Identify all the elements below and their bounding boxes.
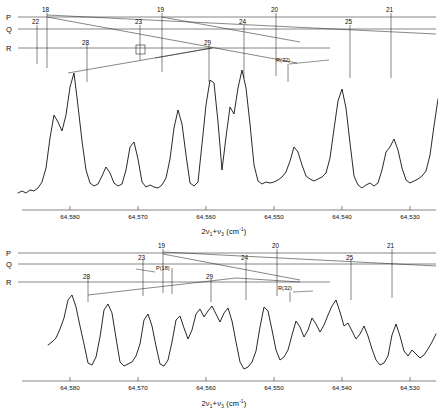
top-panel: P Q R 18 19 20 21 22 23 bbox=[0, 0, 438, 240]
bottom-comb-num-P-20: 20 bbox=[272, 242, 280, 249]
bottom-comb-num-R-28: 28 bbox=[83, 273, 91, 280]
bottom-comb-num-P-21: 21 bbox=[387, 242, 395, 249]
top-comb-num-P-19: 19 bbox=[157, 6, 165, 13]
top-spectrum-trace bbox=[18, 70, 438, 193]
bottom-comb-num-Q-23: 23 bbox=[138, 254, 146, 261]
top-tick-label-3: 64,550 bbox=[264, 213, 284, 220]
top-branch-label-P: P bbox=[6, 13, 11, 22]
top-comb-slant-5 bbox=[155, 48, 212, 58]
top-comb-num-Q-22: 22 bbox=[32, 18, 40, 25]
bottom-branch-label-R: R bbox=[6, 278, 12, 287]
bottom-comb-num-Q-24: 24 bbox=[241, 254, 249, 261]
bottom-annotation-P18: P(18) bbox=[136, 265, 172, 294]
bottom-tick-label-3: 64,550 bbox=[264, 384, 284, 391]
top-tick-label-0: 64,580 bbox=[60, 213, 80, 220]
top-branch-label-R: R bbox=[6, 44, 12, 53]
bottom-tick-label-1: 64,570 bbox=[128, 384, 148, 391]
bottom-tick-label-0: 64,580 bbox=[60, 384, 80, 391]
bottom-comb-num-R-29: 29 bbox=[206, 273, 214, 280]
top-comb-num-Q-24: 24 bbox=[239, 18, 247, 25]
top-annotation-R32: R(32) bbox=[276, 57, 329, 82]
top-x-axis-tick-labels: 64,580 64,570 64,560 64,550 64,540 64,53… bbox=[60, 213, 420, 220]
bottom-tick-label-2: 64,560 bbox=[196, 384, 216, 391]
top-overlap-box bbox=[136, 45, 145, 54]
top-comb-num-P-18: 18 bbox=[42, 6, 50, 13]
bottom-annotation-P18-label: P(18) bbox=[156, 265, 170, 271]
top-comb-num-Q-23: 23 bbox=[135, 18, 143, 25]
top-comb-slant-3 bbox=[162, 17, 300, 42]
bottom-panel: P Q R 19 20 21 23 24 25 bbox=[0, 238, 438, 415]
top-comb-num-R-29: 29 bbox=[204, 39, 212, 46]
bottom-x-axis-title: 2ν1+ν3 (cm-1) bbox=[201, 399, 246, 409]
bottom-comb-num-P-19: 19 bbox=[158, 242, 166, 249]
top-tick-label-4: 64,540 bbox=[332, 213, 352, 220]
bottom-comb-num-Q-25: 25 bbox=[346, 254, 354, 261]
spectroscopy-figure: P Q R 18 19 20 21 22 23 bbox=[0, 0, 438, 415]
top-annotation-R32-label: R(32) bbox=[276, 57, 290, 63]
bottom-annotation-R32: R(32) bbox=[278, 285, 313, 302]
top-tick-label-2: 64,560 bbox=[196, 213, 216, 220]
top-axis-units-close: ) bbox=[244, 227, 247, 236]
bottom-axis-units: (cm bbox=[226, 399, 239, 408]
top-comb-num-P-21: 21 bbox=[386, 6, 394, 13]
bottom-branch-label-Q: Q bbox=[6, 260, 12, 269]
top-comb-group-R: 28 29 bbox=[82, 39, 212, 82]
top-comb-num-R-28: 28 bbox=[82, 39, 90, 46]
bottom-comb-group-P: 19 20 21 bbox=[158, 242, 395, 298]
top-axis-units: (cm bbox=[226, 227, 239, 236]
top-x-axis-ticks bbox=[70, 206, 410, 210]
bottom-comb-group-Q: 23 24 25 bbox=[138, 254, 354, 300]
top-tick-label-1: 64,570 bbox=[128, 213, 148, 220]
top-comb-num-Q-25: 25 bbox=[345, 18, 353, 25]
top-comb-num-P-20: 20 bbox=[271, 6, 279, 13]
bottom-axis-units-close: ) bbox=[244, 399, 247, 408]
bottom-comb-slant-4 bbox=[236, 278, 300, 282]
bottom-x-axis-ticks bbox=[70, 377, 410, 381]
top-tick-label-5: 64,530 bbox=[400, 213, 420, 220]
bottom-tick-label-4: 64,540 bbox=[332, 384, 352, 391]
bottom-comb-group-R: 28 29 bbox=[83, 273, 214, 302]
bottom-spectrum-trace bbox=[48, 295, 436, 369]
bottom-comb-slant-3 bbox=[88, 278, 236, 295]
top-branch-label-Q: Q bbox=[6, 25, 12, 34]
top-x-axis-title: 2ν1+ν3 (cm-1) bbox=[201, 227, 246, 237]
bottom-tick-label-5: 64,530 bbox=[400, 384, 420, 391]
bottom-x-axis-tick-labels: 64,580 64,570 64,560 64,550 64,540 64,53… bbox=[60, 384, 420, 391]
bottom-branch-label-P: P bbox=[6, 249, 11, 258]
bottom-annotation-R32-label: R(32) bbox=[278, 285, 292, 291]
